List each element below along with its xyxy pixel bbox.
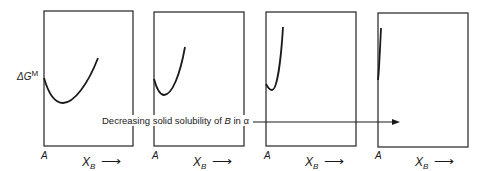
right-arrow-icon: ⟶ <box>324 153 344 169</box>
panel-3-frame <box>266 12 356 146</box>
panel-2-origin-label: A <box>152 150 159 161</box>
trend-caption: Decreasing solid solubility of B in α <box>100 115 251 126</box>
panel-4-x-axis-label: XB⟶ <box>415 153 454 171</box>
trend-arrow-head <box>392 119 400 125</box>
gibbs-energy-diagram <box>0 0 484 171</box>
panel-3-curve <box>266 27 283 90</box>
right-arrow-icon: ⟶ <box>434 153 454 169</box>
panel-4-origin-label: A <box>375 150 382 161</box>
panel-1-origin-label: A <box>41 150 48 161</box>
panel-2-x-axis-label: XB⟶ <box>193 153 232 171</box>
y-axis-label: ΔGM <box>17 69 38 82</box>
panel-2-curve <box>154 47 185 95</box>
panel-4-frame <box>378 13 468 147</box>
panel-3-x-axis-label: XB⟶ <box>305 153 344 171</box>
panel-1-x-axis-label: XB⟶ <box>82 153 121 171</box>
right-arrow-icon: ⟶ <box>212 153 232 169</box>
panel-3-origin-label: A <box>264 150 271 161</box>
panel-1-curve <box>44 58 98 103</box>
right-arrow-icon: ⟶ <box>101 153 121 169</box>
